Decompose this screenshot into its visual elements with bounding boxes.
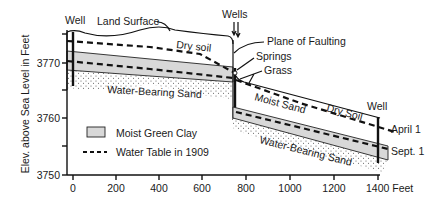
x-tick-1200: 1200 — [322, 182, 346, 194]
x-tick-200: 200 — [107, 182, 125, 194]
label-well-right: Well — [367, 100, 387, 112]
label-grass: Grass — [264, 64, 292, 76]
label-dry-soil-right: Dry Soil — [325, 101, 364, 122]
x-tick-1400-feet: 1400 Feet — [366, 182, 413, 194]
label-well-left: Well — [65, 14, 85, 26]
legend-label-water-table: Water Table in 1909 — [116, 146, 209, 158]
x-tick-800: 800 — [237, 182, 255, 194]
y-axis-label: Elev. above Sea Level in Feet — [19, 35, 31, 174]
legend-label-clay: Moist Green Clay — [116, 127, 198, 139]
legend-swatch-clay — [87, 127, 105, 137]
x-tick-600: 600 — [193, 182, 211, 194]
y-tick-3770: 3770 — [37, 57, 61, 69]
y-axis: 3770 3760 3750 Elev. above Sea Level in … — [19, 30, 67, 181]
label-moist-sand: Moist Sand — [253, 90, 307, 115]
label-springs: Springs — [256, 50, 292, 62]
y-tick-3750: 3750 — [37, 169, 61, 181]
x-tick-400: 400 — [150, 182, 168, 194]
label-sept-1: Sept. 1 — [391, 145, 424, 157]
label-wells-top: Wells — [222, 8, 247, 20]
label-plane-of-faulting: Plane of Faulting — [267, 35, 346, 47]
label-april-1: April 1 — [391, 123, 421, 135]
x-axis: 0 200 400 600 800 1000 1200 1400 Feet — [67, 175, 413, 194]
y-tick-3760: 3760 — [37, 112, 61, 124]
spring-icon — [233, 71, 237, 75]
legend: Moist Green Clay Water Table in 1909 — [83, 127, 209, 158]
x-tick-1000: 1000 — [278, 182, 302, 194]
geologic-cross-section: 3770 3760 3750 Elev. above Sea Level in … — [0, 0, 444, 208]
x-tick-0: 0 — [70, 182, 76, 194]
label-land-surface: Land Surface — [97, 15, 160, 27]
